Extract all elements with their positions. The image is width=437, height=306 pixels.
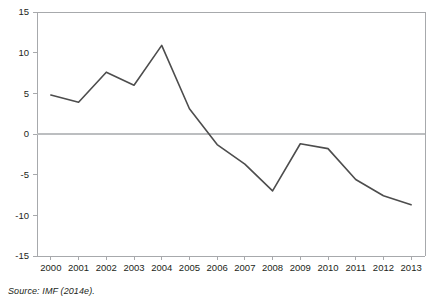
x-tick-label: 2000 — [40, 262, 61, 273]
y-axis-tick-marks — [33, 12, 37, 256]
x-axis-tick-marks — [51, 256, 411, 260]
x-tick-label: 2012 — [373, 262, 394, 273]
x-tick-label: 2001 — [68, 262, 89, 273]
y-tick-label: 15 — [18, 6, 29, 17]
x-tick-label: 2009 — [290, 262, 311, 273]
y-tick-label: -5 — [21, 169, 29, 180]
y-tick-label: 0 — [24, 128, 29, 139]
y-tick-label: 5 — [24, 88, 29, 99]
x-axis-tick-labels: 2000200120022003200420052006200720082009… — [40, 262, 421, 273]
line-chart: 151050-5-10-15 2000200120022003200420052… — [0, 0, 437, 306]
x-tick-label: 2005 — [179, 262, 200, 273]
x-tick-label: 2008 — [262, 262, 283, 273]
y-tick-label: -10 — [15, 210, 29, 221]
x-tick-label: 2004 — [151, 262, 172, 273]
y-axis-tick-labels: 151050-5-10-15 — [15, 6, 29, 261]
x-tick-label: 2003 — [123, 262, 144, 273]
x-tick-label: 2002 — [96, 262, 117, 273]
figure-container: 151050-5-10-15 2000200120022003200420052… — [0, 0, 437, 306]
x-tick-label: 2011 — [345, 262, 365, 273]
source-note: Source: IMF (2014e). — [8, 286, 95, 296]
y-tick-label: -15 — [15, 250, 29, 261]
x-tick-label: 2013 — [401, 262, 422, 273]
y-tick-label: 10 — [18, 47, 29, 58]
x-tick-label: 2006 — [207, 262, 228, 273]
x-tick-label: 2010 — [317, 262, 338, 273]
x-tick-label: 2007 — [234, 262, 255, 273]
